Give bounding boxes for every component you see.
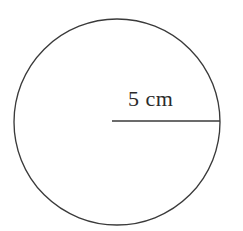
radius-label: 5 cm [128, 88, 173, 110]
circle-diagram-svg [0, 0, 243, 231]
circle-outline [14, 19, 220, 225]
circle-diagram-canvas: 5 cm [0, 0, 243, 231]
